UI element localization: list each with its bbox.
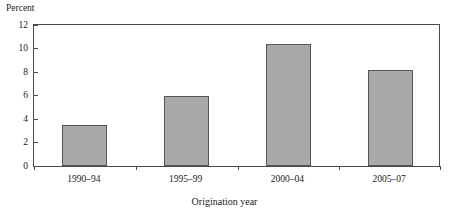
y-tick-mark xyxy=(34,72,38,73)
y-axis-title: Percent xyxy=(6,3,35,14)
y-tick-mark xyxy=(34,142,38,143)
y-tick-label: 4 xyxy=(23,113,28,125)
y-tick-label: 8 xyxy=(23,66,28,78)
x-tick-mark xyxy=(136,166,137,170)
y-tick-mark xyxy=(34,25,38,26)
plot-inner: 024681012 xyxy=(34,25,439,166)
y-tick-mark xyxy=(34,119,38,120)
y-tick-label: 2 xyxy=(23,136,28,148)
plot-area: 024681012 xyxy=(33,24,440,167)
x-axis-title: Origination year xyxy=(0,196,449,208)
bar-1995-99 xyxy=(164,96,209,167)
y-tick-label: 6 xyxy=(23,89,28,101)
bar-chart: Percent 024681012 1990–941995–992000–042… xyxy=(0,0,449,220)
x-category-label: 2005–07 xyxy=(339,173,439,185)
x-tick-mark xyxy=(238,166,239,170)
y-tick-mark xyxy=(34,48,38,49)
y-tick-mark xyxy=(34,95,38,96)
bar-2005-07 xyxy=(368,70,413,166)
y-tick-label: 10 xyxy=(19,42,29,54)
y-tick-label: 12 xyxy=(19,19,29,31)
bar-1990-94 xyxy=(62,125,107,166)
y-tick-label: 0 xyxy=(23,160,28,172)
x-tick-mark xyxy=(339,166,340,170)
x-category-label: 1990–94 xyxy=(34,173,134,185)
x-category-label: 2000–04 xyxy=(237,173,337,185)
x-tick-mark xyxy=(34,166,35,170)
bar-2000-04 xyxy=(266,44,311,166)
x-category-label: 1995–99 xyxy=(136,173,236,185)
x-tick-mark xyxy=(440,166,441,170)
